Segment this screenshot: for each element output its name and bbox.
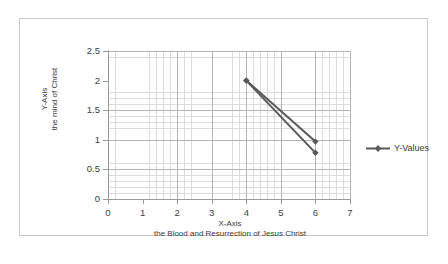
y-tick-label: 0.5 xyxy=(66,164,100,174)
y-tick-mark xyxy=(103,81,108,82)
x-tick-label: 2 xyxy=(165,207,189,218)
x-axis-title-line1: X-Axis xyxy=(90,219,370,229)
y-axis-title: Y-Axis the mind of Christ xyxy=(40,44,60,154)
x-tick-label: 0 xyxy=(96,207,120,218)
x-tick-label: 1 xyxy=(131,207,155,218)
y-tick-mark xyxy=(103,169,108,170)
x-axis-title: X-Axis the Blood and Resurrection of Jes… xyxy=(90,219,370,239)
x-tick-label: 3 xyxy=(200,207,224,218)
y-axis-tick-labels: 0 0.5 1 1.5 2 2.5 xyxy=(64,19,100,237)
y-tick-mark xyxy=(103,140,108,141)
chart-legend: Y-Values xyxy=(365,143,429,153)
y-tick-label: 2.5 xyxy=(66,46,100,56)
x-tick-mark xyxy=(143,199,144,204)
x-tick-mark xyxy=(108,199,109,204)
y-axis-title-line1: Y-Axis xyxy=(40,44,50,154)
x-tick-mark xyxy=(212,199,213,204)
x-tick-mark xyxy=(315,199,316,204)
y-tick-label: 0 xyxy=(66,194,100,204)
y-tick-mark xyxy=(103,51,108,52)
chart-frame: 0 0.5 1 1.5 2 2.5 0 1 2 3 4 5 6 7 Y-Axis… xyxy=(19,18,428,236)
legend-line-marker-icon xyxy=(365,144,391,153)
plot-right-gridline xyxy=(350,51,351,200)
x-tick-mark xyxy=(350,199,351,204)
x-tick-label: 4 xyxy=(234,207,258,218)
y-tick-mark xyxy=(103,110,108,111)
y-tick-label: 1 xyxy=(66,135,100,145)
x-tick-label: 6 xyxy=(303,207,327,218)
legend-label: Y-Values xyxy=(394,143,429,153)
plot-top-gridline xyxy=(108,51,351,52)
y-axis-title-line2: the mind of Christ xyxy=(50,44,60,154)
x-tick-mark xyxy=(246,199,247,204)
x-axis-title-line2: the Blood and Resurrection of Jesus Chri… xyxy=(90,229,370,239)
x-tick-label: 7 xyxy=(338,207,362,218)
x-tick-label: 5 xyxy=(269,207,293,218)
x-tick-mark xyxy=(177,199,178,204)
x-tick-mark xyxy=(281,199,282,204)
y-tick-label: 1.5 xyxy=(66,105,100,115)
plot-area xyxy=(108,51,350,199)
x-axis-line xyxy=(107,199,351,200)
y-tick-label: 2 xyxy=(66,76,100,86)
y-axis-line xyxy=(108,50,109,200)
